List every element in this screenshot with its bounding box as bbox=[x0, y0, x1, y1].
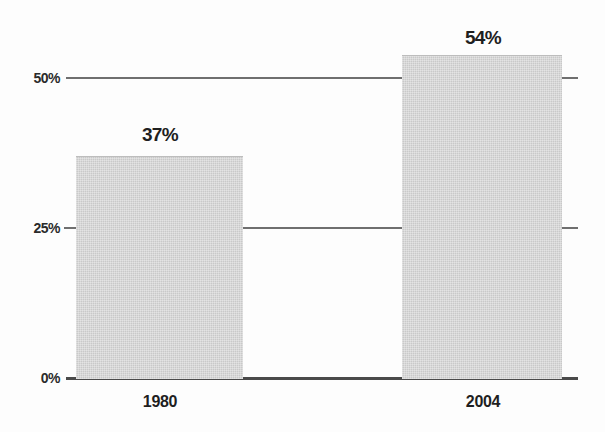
bar-1980[interactable] bbox=[76, 156, 243, 379]
bar-value-label-1980: 37% bbox=[142, 124, 178, 146]
bar-chart: 50% 25% 0% 37% 54% 1980 2004 bbox=[0, 0, 605, 432]
y-tick-label-50: 50% bbox=[33, 70, 60, 86]
x-tick-label-1980: 1980 bbox=[143, 393, 177, 411]
x-tick-label-2004: 2004 bbox=[466, 393, 500, 411]
bar-value-label-2004: 54% bbox=[465, 27, 501, 49]
y-tick-label-25: 25% bbox=[33, 220, 60, 236]
tick-stub-25 bbox=[64, 227, 76, 229]
y-tick-label-0: 0% bbox=[41, 370, 60, 386]
bar-2004[interactable] bbox=[402, 55, 562, 379]
y-axis-labels: 50% 25% 0% bbox=[0, 0, 60, 432]
